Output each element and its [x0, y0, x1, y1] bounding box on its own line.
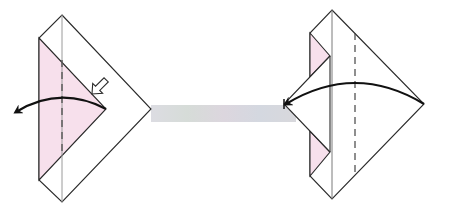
- inner-flap-edges: [284, 56, 330, 152]
- diagram-canvas: [0, 0, 449, 215]
- origami-diagram: Origami folding steps: [0, 0, 449, 215]
- step-right: [284, 10, 424, 199]
- step-left: [16, 15, 151, 202]
- connector-strip: [151, 105, 296, 122]
